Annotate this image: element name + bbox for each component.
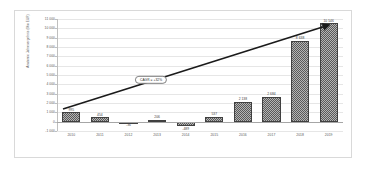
y-tick-mark xyxy=(55,19,57,20)
bar-value-label: 2 138 xyxy=(229,97,258,101)
y-tick-mark xyxy=(55,56,57,57)
y-tick-label: 4 000 xyxy=(46,82,55,86)
y-tick-label: -1 000 xyxy=(45,129,55,133)
y-tick-mark xyxy=(55,94,57,95)
bar-slot: 537 xyxy=(200,19,229,131)
bar[interactable] xyxy=(62,112,80,121)
y-tick-label: 2 000 xyxy=(46,101,55,105)
y-tick-mark xyxy=(55,103,57,104)
zero-baseline xyxy=(57,122,343,123)
bar-slot: 2 138 xyxy=(229,19,258,131)
x-axis-tick-labels: 2010201120122013201420152016201720182019 xyxy=(57,133,343,145)
y-tick-label: 6 000 xyxy=(46,64,55,68)
bar-value-label: 10 546 xyxy=(314,19,343,23)
y-tick-mark xyxy=(55,66,57,67)
x-tick-label: 2012 xyxy=(114,133,143,137)
x-tick-label: 2015 xyxy=(200,133,229,137)
bar-value-label: 8 638 xyxy=(286,36,315,40)
y-tick-label: 10 000 xyxy=(45,26,55,30)
y-tick-mark xyxy=(55,112,57,113)
bar[interactable] xyxy=(320,23,338,121)
y-tick-label: 11 000 xyxy=(45,17,55,21)
bar-value-label: 454 xyxy=(86,113,115,117)
y-tick-label: 5 000 xyxy=(46,73,55,77)
x-tick-label: 2014 xyxy=(171,133,200,137)
x-tick-label: 2010 xyxy=(57,133,86,137)
x-tick-label: 2013 xyxy=(143,133,172,137)
y-tick-mark xyxy=(55,28,57,29)
y-tick-label: 9 000 xyxy=(46,36,55,40)
y-tick-mark xyxy=(55,38,57,39)
cagr-callout: CAGR = +32% xyxy=(135,75,167,83)
bar[interactable] xyxy=(262,97,280,122)
bar-value-label: 995 xyxy=(57,108,86,112)
chart-figure: Anatomic Jahresergebnis (Mio EUR) 11 000… xyxy=(14,10,352,158)
y-tick-mark xyxy=(55,122,57,123)
x-tick-label: 2011 xyxy=(86,133,115,137)
bar-slot: 10 546 xyxy=(314,19,343,131)
plot-area: 995454-36206-4895372 1382 6848 63810 546 xyxy=(57,19,343,131)
y-tick-mark xyxy=(55,131,57,132)
y-tick-label: 7 000 xyxy=(46,54,55,58)
bar-slot: 2 684 xyxy=(257,19,286,131)
bar-value-label: 537 xyxy=(200,112,229,116)
bar-value-label: -36 xyxy=(114,123,143,127)
bar[interactable] xyxy=(291,41,309,122)
chart-plot-wrapper: Anatomic Jahresergebnis (Mio EUR) 11 000… xyxy=(15,11,351,157)
bar-series: 995454-36206-4895372 1382 6848 63810 546 xyxy=(57,19,343,131)
x-tick-label: 2016 xyxy=(229,133,258,137)
bar-slot: 995 xyxy=(57,19,86,131)
y-tick-label: 3 000 xyxy=(46,92,55,96)
x-tick-label: 2018 xyxy=(286,133,315,137)
bar-slot: 454 xyxy=(86,19,115,131)
bar-value-label: 2 684 xyxy=(257,92,286,96)
y-tick-label: 8 000 xyxy=(46,45,55,49)
y-axis-tick-labels: 11 00010 0009 0008 0007 0006 0005 0004 0… xyxy=(31,19,55,131)
bar-slot: -489 xyxy=(171,19,200,131)
bar-value-label: -489 xyxy=(171,127,200,131)
bar-value-label: 206 xyxy=(143,115,172,119)
y-tick-mark xyxy=(55,75,57,76)
bar-slot: 8 638 xyxy=(286,19,315,131)
y-tick-label: 1 000 xyxy=(46,110,55,114)
y-axis-title: Anatomic Jahresergebnis (Mio EUR) xyxy=(26,0,30,84)
gridline xyxy=(57,131,343,132)
bar[interactable] xyxy=(234,102,252,122)
x-tick-label: 2017 xyxy=(257,133,286,137)
y-tick-mark xyxy=(55,47,57,48)
y-tick-mark xyxy=(55,84,57,85)
x-tick-label: 2019 xyxy=(314,133,343,137)
